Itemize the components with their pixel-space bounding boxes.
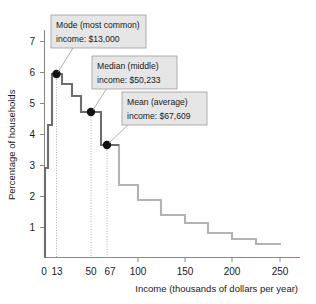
mode-callout: Mode (most common) income: $13,000: [51, 15, 146, 48]
chart-page: 1 2 3 4 5 6 7 Percentage of households 0…: [0, 0, 316, 304]
x-tick-label-0: 0: [41, 266, 47, 277]
median-callout-line1: Median (middle): [97, 61, 159, 71]
x-axis-title: Income (thousands of dollars per year): [135, 283, 298, 294]
x-tick-marks: [138, 258, 280, 263]
y-tick-label-1: 1: [29, 222, 35, 233]
marker-dot-mode: [52, 70, 60, 78]
y-tick-label-7: 7: [29, 36, 35, 47]
y-tick-label-4: 4: [29, 129, 35, 140]
y-tick-label-2: 2: [29, 191, 35, 202]
y-tick-labels: 1 2 3 4 5 6 7: [29, 36, 35, 233]
mode-callout-line2: income: $13,000: [56, 34, 120, 44]
x-tick-label-67: 67: [104, 266, 116, 277]
leader-line-median: [93, 88, 107, 110]
mean-callout: Mean (average) income: $67,609: [122, 92, 207, 125]
median-callout-line2: income: $50,233: [97, 75, 161, 85]
x-tick-label-13: 13: [51, 266, 63, 277]
distribution-curve-tail: [107, 145, 281, 244]
median-callout: Median (middle) income: $50,233: [92, 56, 177, 89]
y-tick-marks: [40, 42, 45, 228]
income-distribution-chart: 1 2 3 4 5 6 7 Percentage of households 0…: [0, 0, 316, 304]
leader-line-mean: [109, 123, 130, 143]
x-tick-label-200: 200: [224, 266, 241, 277]
y-tick-label-3: 3: [29, 160, 35, 171]
x-tick-label-100: 100: [130, 266, 147, 277]
x-tick-label-150: 150: [177, 266, 194, 277]
x-tick-labels: 0 13 50 67 100 150 200 250: [41, 266, 289, 277]
mean-callout-line1: Mean (average): [127, 97, 188, 107]
mean-callout-line2: income: $67,609: [127, 111, 191, 121]
y-tick-label-6: 6: [29, 67, 35, 78]
x-tick-label-50: 50: [85, 266, 97, 277]
y-tick-label-5: 5: [29, 98, 35, 109]
mode-callout-line1: Mode (most common): [56, 20, 140, 30]
leader-line-mode: [58, 48, 73, 72]
y-axis-title: Percentage of households: [6, 89, 17, 200]
x-tick-label-250: 250: [272, 266, 289, 277]
